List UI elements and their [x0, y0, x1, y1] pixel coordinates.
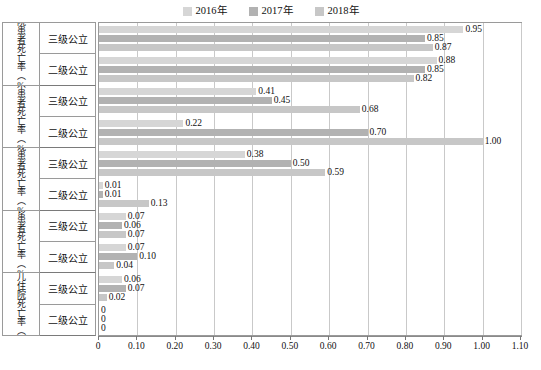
- x-tick: [175, 336, 176, 340]
- bar-value-label: 0.70: [370, 128, 387, 137]
- bar-value-label: 0.38: [247, 150, 264, 159]
- bar-group-0-1: 0.880.850.82: [99, 54, 521, 85]
- bar-group-3-0: 0.070.060.07: [99, 210, 521, 241]
- gridline: [521, 23, 522, 335]
- bar-row: 0: [99, 307, 521, 314]
- x-tick-label: 0.50: [282, 341, 299, 351]
- bar-row: 0.06: [99, 276, 521, 283]
- legend-item-2[interactable]: 2018年: [315, 6, 359, 16]
- legend-item-0[interactable]: 2016年: [183, 6, 227, 16]
- x-tick-label: 0.10: [128, 341, 145, 351]
- bar-2016年[interactable]: [99, 182, 103, 189]
- bar-2017年[interactable]: [99, 191, 103, 198]
- bar-row: 0.87: [99, 44, 521, 51]
- subgroup-label-2-0: 三级公立: [40, 148, 96, 179]
- bar-group-4-1: 000: [99, 304, 521, 335]
- bar-row: 0.01: [99, 182, 521, 189]
- bar-2018年[interactable]: [99, 231, 126, 238]
- x-tick: [520, 336, 521, 340]
- bar-group-3-1: 0.070.100.04: [99, 241, 521, 272]
- group-label-cell-1: 手术患者死亡率（%）: [3, 86, 39, 149]
- bar-2018年[interactable]: [99, 138, 483, 145]
- bar-group-1-0: 0.410.450.68: [99, 85, 521, 116]
- bar-2016年[interactable]: [99, 276, 122, 283]
- bar-row: 0.41: [99, 88, 521, 95]
- bar-2016年[interactable]: [99, 120, 183, 127]
- bar-2017年[interactable]: [99, 129, 368, 136]
- bar-row: 0.02: [99, 294, 521, 301]
- x-tick: [213, 336, 214, 340]
- bar-2017年[interactable]: [99, 35, 425, 42]
- bar-value-label: 0.50: [293, 159, 310, 168]
- x-tick-label: 1.10: [512, 341, 529, 351]
- bar-value-label: 0.10: [139, 252, 156, 261]
- legend-item-1[interactable]: 2017年: [249, 6, 293, 16]
- bar-row: 0.85: [99, 35, 521, 42]
- bar-2018年[interactable]: [99, 200, 149, 207]
- bar-row: 0.10: [99, 253, 521, 260]
- bar-2016年[interactable]: [99, 26, 463, 33]
- bar-row: 0.22: [99, 120, 521, 127]
- bar-row: 0.38: [99, 151, 521, 158]
- bar-row: 0: [99, 325, 521, 332]
- bar-2018年[interactable]: [99, 294, 107, 301]
- bar-value-label: 0.87: [435, 43, 452, 52]
- x-tick: [405, 336, 406, 340]
- bar-2016年[interactable]: [99, 151, 245, 158]
- bar-group-2-1: 0.010.010.13: [99, 179, 521, 210]
- bar-row: 0.68: [99, 106, 521, 113]
- bar-2017年[interactable]: [99, 222, 122, 229]
- subgroup-label-4-1: 二级公立: [40, 305, 96, 336]
- group-label-cell-2: 留观患者死亡率（%）: [3, 148, 39, 211]
- group-label-cell-3: 急诊患者死亡率（%）: [3, 211, 39, 274]
- bar-2016年[interactable]: [99, 244, 126, 251]
- bar-value-label: 0.01: [105, 190, 122, 199]
- bar-row: 0.82: [99, 75, 521, 82]
- x-tick-label: 0: [96, 341, 101, 351]
- bar-value-label: 0.04: [116, 261, 133, 270]
- x-tick-label: 0.80: [397, 341, 414, 351]
- bar-2017年[interactable]: [99, 253, 137, 260]
- x-tick: [251, 336, 252, 340]
- x-tick: [328, 336, 329, 340]
- subgroup-label-1-1: 二级公立: [40, 117, 96, 148]
- category-axis: 住院患者死亡率（%）手术患者死亡率（%）留观患者死亡率（%）急诊患者死亡率（%）…: [2, 22, 98, 336]
- bar-value-label: 0.68: [362, 105, 379, 114]
- bar-value-label: 0.59: [327, 168, 344, 177]
- group-label-text: 手术患者死亡率（%）: [16, 86, 26, 149]
- bar-2017年[interactable]: [99, 66, 425, 73]
- bar-2018年[interactable]: [99, 106, 360, 113]
- x-tick-label: 0.20: [166, 341, 183, 351]
- x-tick: [367, 336, 368, 340]
- bar-2018年[interactable]: [99, 44, 433, 51]
- subgroup-label-0-0: 三级公立: [40, 22, 96, 54]
- group-label-column: 住院患者死亡率（%）手术患者死亡率（%）留观患者死亡率（%）急诊患者死亡率（%）…: [2, 22, 40, 336]
- legend-swatch-icon: [249, 7, 258, 16]
- bar-group-1-1: 0.220.701.00: [99, 117, 521, 148]
- bar-row: 0.01: [99, 191, 521, 198]
- group-label-cell-0: 住院患者死亡率（%）: [3, 22, 39, 86]
- bar-2018年[interactable]: [99, 262, 114, 269]
- bar-row: 0.07: [99, 244, 521, 251]
- subgroup-label-3-0: 三级公立: [40, 211, 96, 242]
- bar-2016年[interactable]: [99, 213, 126, 220]
- legend-label: 2018年: [328, 6, 359, 16]
- bar-2018年[interactable]: [99, 75, 414, 82]
- bar-2017年[interactable]: [99, 160, 291, 167]
- subgroup-label-4-0: 三级公立: [40, 273, 96, 304]
- x-tick: [482, 336, 483, 340]
- bar-row: 0.70: [99, 129, 521, 136]
- bar-row: 0.59: [99, 169, 521, 176]
- bar-2017年[interactable]: [99, 97, 272, 104]
- bar-2016年[interactable]: [99, 57, 437, 64]
- bar-2017年[interactable]: [99, 285, 126, 292]
- bar-row: 0.95: [99, 26, 521, 33]
- x-tick: [443, 336, 444, 340]
- bar-2016年[interactable]: [99, 88, 256, 95]
- legend-swatch-icon: [183, 7, 192, 16]
- bar-2018年[interactable]: [99, 169, 325, 176]
- legend-label: 2016年: [196, 6, 227, 16]
- bar-value-label: 0: [101, 324, 106, 333]
- bar-row: 0.50: [99, 160, 521, 167]
- bar-value-label: 0.41: [258, 87, 275, 96]
